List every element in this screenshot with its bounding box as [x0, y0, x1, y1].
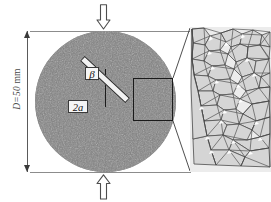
- diameter-value: 50: [12, 86, 22, 96]
- microstructure-callout-region: [133, 78, 173, 121]
- diameter-equals: =: [12, 96, 22, 103]
- grain-mesh: [190, 27, 271, 172]
- platen-bottom: [30, 172, 191, 173]
- flaw-angle-label: β: [85, 67, 99, 80]
- load-arrow-up-icon: [96, 174, 111, 200]
- dimension-arrowhead-top-icon: [24, 31, 30, 38]
- diameter-unit: mm: [12, 68, 22, 83]
- load-arrow-down-icon: [96, 4, 111, 30]
- grain-structure-inset: [190, 27, 271, 172]
- figure-root: D=50 mm: [0, 0, 271, 202]
- diameter-dimension-label: D=50 mm: [12, 54, 22, 124]
- diameter-symbol: D: [12, 103, 22, 110]
- flaw-length-label: 2a: [68, 100, 88, 113]
- diameter-dimension-line: [27, 31, 28, 172]
- dimension-arrowhead-bottom-icon: [24, 165, 30, 172]
